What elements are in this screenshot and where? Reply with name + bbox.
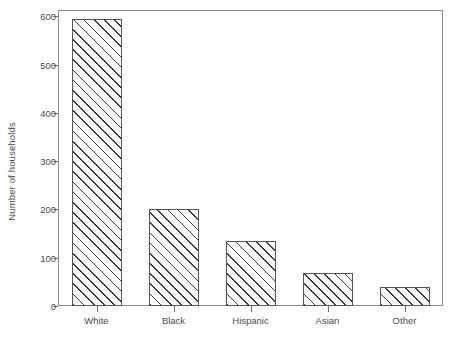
x-tick-label: White bbox=[84, 315, 108, 326]
bar bbox=[226, 241, 276, 306]
y-tick-label: 400 bbox=[40, 107, 56, 118]
bar bbox=[72, 19, 122, 306]
y-axis-title: Number of households bbox=[0, 0, 22, 343]
x-tick-label: Black bbox=[162, 315, 185, 326]
x-tick-label: Other bbox=[393, 315, 417, 326]
x-tick-mark bbox=[174, 306, 175, 312]
bar bbox=[303, 273, 353, 306]
x-tick-mark bbox=[97, 306, 98, 312]
y-tick-label: 600 bbox=[40, 11, 56, 22]
bar-chart-figure: Number of households 0100200300400500600… bbox=[0, 0, 455, 343]
y-tick-label: 500 bbox=[40, 59, 56, 70]
y-tick-label: 200 bbox=[40, 204, 56, 215]
bar bbox=[380, 287, 430, 306]
plot-area: 0100200300400500600WhiteBlackHispanicAsi… bbox=[58, 10, 443, 306]
y-tick-label: 100 bbox=[40, 252, 56, 263]
x-tick-label: Hispanic bbox=[232, 315, 268, 326]
bar bbox=[149, 209, 199, 306]
y-tick-label: 0 bbox=[51, 301, 56, 312]
x-tick-label: Asian bbox=[316, 315, 340, 326]
x-tick-mark bbox=[328, 306, 329, 312]
x-tick-mark bbox=[251, 306, 252, 312]
x-tick-mark bbox=[405, 306, 406, 312]
y-tick-label: 300 bbox=[40, 156, 56, 167]
